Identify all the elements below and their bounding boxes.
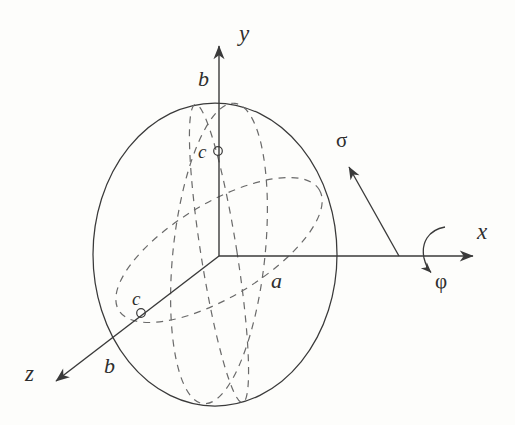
semi-axis-b-front-label: b [104,355,115,377]
diagram-canvas [0,0,515,425]
axis-x-label: x [477,220,487,243]
angle-phi-label: φ [435,271,447,292]
vector-sigma-label: σ [336,130,347,151]
semi-axis-a-label: a [271,270,282,292]
axis-y-label: y [239,22,249,45]
marker-c-top-icon [214,147,223,156]
angle-phi-arc [423,227,445,273]
marker-c-front-label: c [132,289,140,308]
axis-z-label: z [25,362,34,385]
semi-axis-b-top-label: b [198,68,209,90]
vector-sigma-line [349,167,399,256]
marker-c-top-label: c [198,142,206,161]
ellipsoid-diagram: y x z b b a c c σ φ [0,0,515,425]
axis-z-line [56,256,219,381]
